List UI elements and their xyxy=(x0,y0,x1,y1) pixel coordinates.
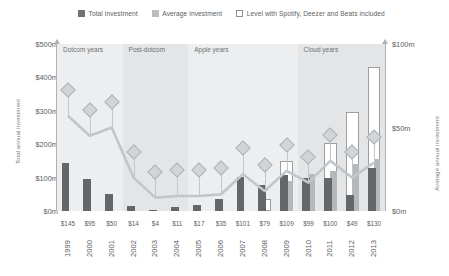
x-value-2005: $17 xyxy=(188,220,210,227)
right-tick-50: $50m xyxy=(392,124,411,133)
x-year-2006: 2006 xyxy=(216,238,225,260)
legend-item-total-investment: Total investment xyxy=(78,10,138,17)
x-value-2007: $101 xyxy=(232,220,254,227)
x-label-column-1999: $1451999 xyxy=(57,211,79,253)
right-tick-100: $100m xyxy=(392,40,415,49)
x-value-2000: $95 xyxy=(79,220,101,227)
x-year-2011: 2011 xyxy=(326,238,335,260)
legend-label-total: Total investment xyxy=(89,10,138,17)
x-year-2001: 2001 xyxy=(107,238,116,260)
x-label-column-2011: $1002011 xyxy=(319,211,341,253)
x-value-2006: $35 xyxy=(210,220,232,227)
x-value-2004: $11 xyxy=(166,220,188,227)
average-line-series xyxy=(57,44,385,211)
x-label-column-2001: $502001 xyxy=(101,211,123,253)
average-swatch xyxy=(152,10,159,17)
x-year-2009: 2009 xyxy=(282,238,291,260)
x-value-2010: $99 xyxy=(298,220,320,227)
x-value-2009: $109 xyxy=(276,220,298,227)
x-year-2000: 2000 xyxy=(85,238,94,260)
left-tick-400: $400m xyxy=(35,73,58,82)
x-value-2003: $4 xyxy=(144,220,166,227)
x-value-2011: $100 xyxy=(319,220,341,227)
left-tick-300: $300m xyxy=(35,107,58,116)
x-label-column-2013: $1302013 xyxy=(363,211,385,253)
x-value-2013: $130 xyxy=(363,220,385,227)
x-value-2008: $79 xyxy=(254,220,276,227)
right-axis-title: Average annual investment xyxy=(433,106,440,202)
legend-item-level: Level with Spotify, Deezer and Beats inc… xyxy=(236,10,385,17)
x-year-2013: 2013 xyxy=(370,238,379,260)
legend-label-average: Average investment xyxy=(162,10,222,17)
x-year-2004: 2004 xyxy=(173,238,182,260)
x-label-column-2008: $792008 xyxy=(254,211,276,253)
x-label-column-2009: $1092009 xyxy=(276,211,298,253)
legend-label-level: Level with Spotify, Deezer and Beats inc… xyxy=(247,10,385,17)
x-year-2005: 2005 xyxy=(195,238,204,260)
x-year-2010: 2010 xyxy=(304,238,313,260)
right-tick-0: $0m xyxy=(392,207,406,216)
x-label-column-2004: $112004 xyxy=(166,211,188,253)
left-tick-100: $100m xyxy=(35,174,58,183)
x-year-2003: 2003 xyxy=(151,238,160,260)
x-label-column-2005: $172005 xyxy=(188,211,210,253)
x-year-2008: 2008 xyxy=(260,238,269,260)
legend-item-average-investment: Average investment xyxy=(152,10,222,17)
x-value-2012: $49 xyxy=(341,220,363,227)
x-label-column-2000: $952000 xyxy=(79,211,101,253)
x-label-column-2006: $352006 xyxy=(210,211,232,253)
x-label-column-2007: $1012007 xyxy=(232,211,254,253)
x-year-2002: 2002 xyxy=(129,238,138,260)
total-swatch xyxy=(78,10,85,17)
left-tick-200: $200m xyxy=(35,140,58,149)
x-year-2012: 2012 xyxy=(348,238,357,260)
x-value-2001: $50 xyxy=(101,220,123,227)
x-axis-labels: $1451999$952000$502001$142002$42003$1120… xyxy=(57,211,385,276)
x-value-2002: $14 xyxy=(123,220,145,227)
left-axis-title: Total annual investment xyxy=(14,84,21,180)
plot-area: Dotcom yearsPost-dotcomApple yearsCloud … xyxy=(57,44,385,211)
x-year-1999: 1999 xyxy=(63,238,72,260)
investment-chart: Total investment Average investment Leve… xyxy=(0,0,449,276)
x-label-column-2012: $492012 xyxy=(341,211,363,253)
x-label-column-2010: $992010 xyxy=(298,211,320,253)
x-year-2007: 2007 xyxy=(238,238,247,260)
chart-legend: Total investment Average investment Leve… xyxy=(78,10,385,17)
x-label-column-2002: $142002 xyxy=(123,211,145,253)
x-value-1999: $145 xyxy=(57,220,79,227)
level-swatch xyxy=(236,10,243,17)
x-label-column-2003: $42003 xyxy=(144,211,166,253)
